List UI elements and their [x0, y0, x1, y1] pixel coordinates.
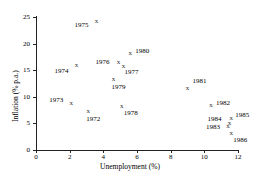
- data-point-marker: x: [70, 100, 74, 107]
- x-tick-label: 8: [161, 153, 181, 161]
- data-point-label: 1979: [111, 83, 125, 91]
- x-tick-label: 4: [93, 153, 113, 161]
- data-point-label: 1980: [135, 47, 149, 55]
- data-point-label: 1975: [75, 21, 89, 29]
- y-tick-label: 25: [14, 13, 30, 21]
- scatter-chart: 0246810120510152025 x1972x1973x1974x1975…: [0, 0, 260, 180]
- data-point-label: 1978: [124, 109, 138, 117]
- data-point-label: 1972: [86, 115, 100, 123]
- data-point-label: 1986: [233, 136, 247, 144]
- data-point-label: 1984: [208, 115, 222, 123]
- data-point-marker: x: [112, 75, 116, 82]
- data-point-label: 1977: [125, 68, 139, 76]
- y-tick-mark: [33, 150, 36, 151]
- y-axis-title: Inflation (% p.a.): [11, 70, 20, 122]
- x-tick-label: 6: [127, 153, 147, 161]
- x-tick-label: 12: [228, 153, 248, 161]
- data-point-label: 1985: [235, 111, 249, 119]
- data-point-marker: x: [117, 59, 121, 66]
- data-point-marker: x: [186, 84, 190, 91]
- data-point-marker: x: [230, 115, 234, 122]
- data-point-marker: x: [95, 18, 99, 25]
- y-tick-label: 0: [14, 146, 30, 154]
- data-point-marker: x: [75, 61, 79, 68]
- y-tick-label: 20: [14, 40, 30, 48]
- data-point-label: 1973: [49, 96, 63, 104]
- data-point-marker: x: [86, 108, 90, 115]
- x-tick-label: 0: [26, 153, 46, 161]
- data-points-layer: x1972x1973x1974x1975x1976x1977x1978x1979…: [36, 17, 238, 150]
- data-point-label: 1983: [206, 123, 220, 131]
- x-tick-label: 2: [60, 153, 80, 161]
- data-point-label: 1974: [54, 67, 68, 75]
- data-point-marker: x: [209, 101, 213, 108]
- x-axis-title: Unemployment (%): [0, 162, 260, 171]
- x-tick-label: 10: [194, 153, 214, 161]
- data-point-label: 1981: [193, 77, 207, 85]
- data-point-marker: x: [129, 49, 133, 56]
- data-point-label: 1982: [216, 99, 230, 107]
- data-point-label: 1976: [95, 58, 109, 66]
